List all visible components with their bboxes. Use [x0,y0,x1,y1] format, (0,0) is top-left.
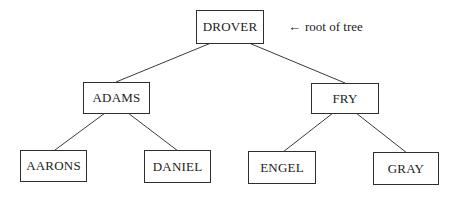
node-label: GRAY [388,161,424,177]
node-label: DROVER [203,19,258,35]
node-label: FRY [332,91,357,107]
edge-drover-fry [249,43,345,83]
edge-drover-adams [116,43,211,82]
edge-adams-daniel [128,113,178,151]
left-arrow-icon: ← [288,19,301,34]
node-adams: ADAMS [83,82,150,114]
node-label: DANIEL [153,159,203,175]
annotation-text: root of tree [305,19,363,34]
node-engel: ENGEL [248,151,316,184]
edge-adams-aarons [55,113,105,150]
node-label: ADAMS [93,90,141,106]
tree-diagram: DROVER ←root of tree ADAMS FRY AARONS DA… [0,0,457,198]
node-aarons: AARONS [20,150,87,182]
edge-fry-gray [356,113,407,153]
root-annotation: ←root of tree [288,19,363,35]
node-label: AARONS [26,158,81,174]
edge-fry-engel [283,113,333,152]
node-daniel: DANIEL [144,150,211,183]
node-fry: FRY [311,83,379,114]
node-gray: GRAY [373,152,439,185]
node-label: ENGEL [260,160,304,176]
node-drover: DROVER [196,10,264,44]
